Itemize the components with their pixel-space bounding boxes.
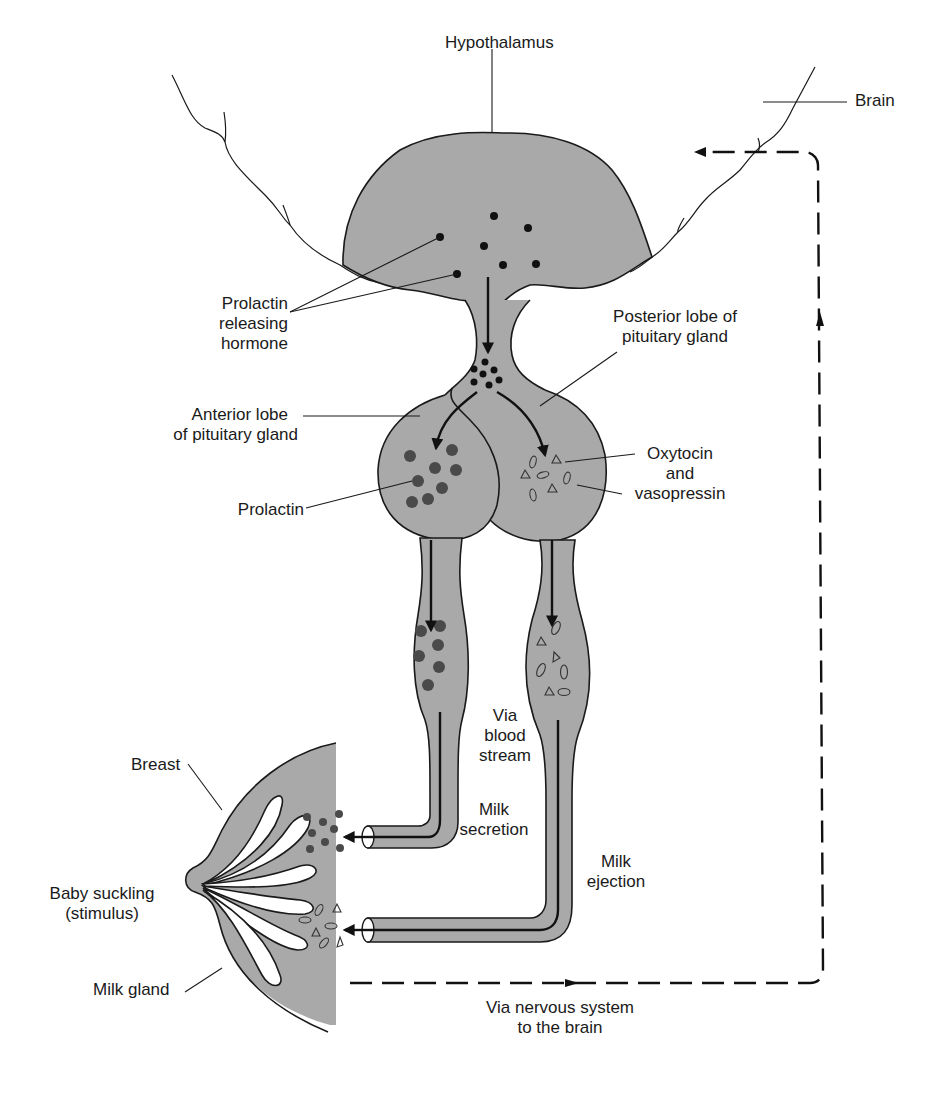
- posterior-line-2: pituitary gland: [600, 327, 750, 347]
- label-prolactin: Prolactin: [220, 500, 304, 520]
- label-via-blood-stream: Via blood stream: [470, 706, 540, 766]
- prh-line-3: hormone: [180, 334, 288, 354]
- bs-line-1: Baby suckling: [38, 884, 166, 904]
- prh-line-1: Prolactin: [180, 294, 288, 314]
- vbs-line-3: stream: [470, 746, 540, 766]
- prh-line-2: releasing: [180, 314, 288, 334]
- anterior-line-2: of pituitary gland: [150, 425, 298, 445]
- label-anterior-lobe: Anterior lobe of pituitary gland: [150, 405, 298, 445]
- hypothalamus: [343, 133, 652, 310]
- lactation-reflex-diagram: [0, 0, 935, 1110]
- label-hypothalamus: Hypothalamus: [445, 33, 545, 53]
- oxy-line-1: Oxytocin: [625, 444, 735, 464]
- vbs-line-1: Via: [470, 706, 540, 726]
- bs-line-2: (stimulus): [38, 904, 166, 924]
- label-prolactin-releasing-hormone: Prolactin releasing hormone: [180, 294, 288, 354]
- label-milk-secretion: Milk secretion: [452, 800, 536, 840]
- vns-line-2: to the brain: [470, 1018, 650, 1038]
- label-breast: Breast: [131, 755, 180, 775]
- posterior-line-1: Posterior lobe of: [600, 307, 750, 327]
- ms-line-1: Milk: [452, 800, 536, 820]
- label-milk-ejection: Milk ejection: [576, 852, 656, 892]
- anterior-line-1: Anterior lobe: [150, 405, 298, 425]
- breast: [186, 743, 336, 1032]
- label-via-nervous-system: Via nervous system to the brain: [470, 998, 650, 1038]
- oxy-line-2: and: [625, 464, 735, 484]
- me-line-1: Milk: [576, 852, 656, 872]
- label-brain: Brain: [855, 91, 895, 111]
- ms-line-2: secretion: [452, 820, 536, 840]
- me-line-2: ejection: [576, 872, 656, 892]
- label-baby-suckling: Baby suckling (stimulus): [38, 884, 166, 924]
- vbs-line-2: blood: [470, 726, 540, 746]
- label-oxytocin-vasopressin: Oxytocin and vasopressin: [625, 444, 735, 504]
- vns-line-1: Via nervous system: [470, 998, 650, 1018]
- oxy-line-3: vasopressin: [625, 484, 735, 504]
- label-milk-gland: Milk gland: [93, 980, 170, 1000]
- label-posterior-lobe: Posterior lobe of pituitary gland: [600, 307, 750, 347]
